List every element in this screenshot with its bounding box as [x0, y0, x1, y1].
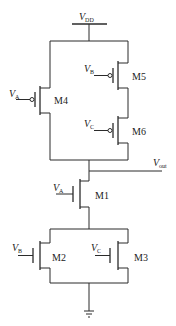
transistor-m2: VB M2 [12, 229, 66, 283]
ground-icon [84, 283, 94, 317]
m4-gate-label: VA [9, 88, 20, 100]
transistor-m1: VA M1 [53, 179, 109, 229]
m5-gate-label: VB [84, 63, 94, 75]
m3-gate-label: VC [91, 242, 101, 254]
m6-gate-label: VC [84, 118, 94, 130]
m3-label: M3 [134, 252, 148, 263]
transistor-m3: VC M3 [91, 229, 148, 283]
transistor-m4: VA M4 [9, 41, 68, 160]
m4-label: M4 [54, 95, 68, 106]
transistor-m6: VC M6 [84, 116, 146, 160]
output-node: Vout [89, 157, 167, 181]
vout-label: Vout [153, 157, 167, 169]
m2-gate-label: VB [12, 242, 22, 254]
vdd-label: VDD [79, 11, 94, 23]
m1-gate-label: VA [53, 182, 64, 194]
transistor-m5: VB M5 [84, 41, 146, 118]
vdd-supply: VDD [72, 11, 107, 41]
m6-label: M6 [132, 126, 146, 137]
m2-label: M2 [52, 252, 66, 263]
m5-label: M5 [132, 71, 146, 82]
cmos-schematic: VDD VA M4 VB M5 VC M6 [0, 0, 176, 326]
m1-label: M1 [95, 190, 109, 201]
